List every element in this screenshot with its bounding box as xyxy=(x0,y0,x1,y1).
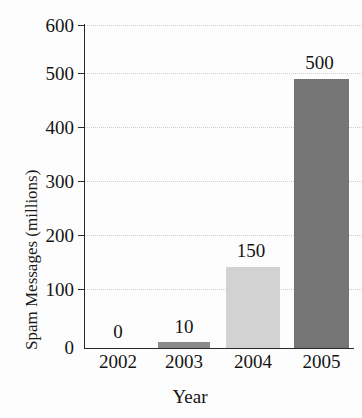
x-tick-label-2004: 2004 xyxy=(226,352,280,371)
y-tick-label-100: 100 xyxy=(22,280,74,299)
y-tick-label-0: 0 xyxy=(22,338,74,357)
bars-layer: 0 10 150 500 xyxy=(86,25,354,348)
y-axis-label-line2: Spam Messages (millions) xyxy=(22,170,42,350)
x-tick-label-2002: 2002 xyxy=(92,352,144,371)
bar-value-2002: 0 xyxy=(92,322,144,341)
x-tick-label-2003: 2003 xyxy=(158,352,210,371)
y-tick-label-200: 200 xyxy=(22,226,74,245)
x-axis-line xyxy=(84,348,354,349)
bar-2004 xyxy=(226,267,280,348)
y-tick-label-500: 500 xyxy=(22,64,74,83)
y-tick-label-600: 600 xyxy=(22,16,74,35)
y-tick-100 xyxy=(78,289,85,290)
bar-value-2005: 500 xyxy=(292,53,347,72)
bar-value-2003: 10 xyxy=(158,317,210,336)
y-tick-label-400: 400 xyxy=(22,118,74,137)
x-tick-label-2005: 2005 xyxy=(294,352,349,371)
bar-value-2004: 150 xyxy=(224,241,278,260)
y-tick-400 xyxy=(78,127,85,128)
x-axis-title: Year xyxy=(85,386,295,408)
y-tick-200 xyxy=(78,235,85,236)
bar-2005 xyxy=(294,79,349,348)
bar-chart: Spam Messages (millions) 600 500 400 300… xyxy=(0,0,362,418)
y-tick-300 xyxy=(78,181,85,182)
y-tick-500 xyxy=(78,73,85,74)
y-tick-label-300: 300 xyxy=(22,172,74,191)
bar-2003 xyxy=(158,342,210,348)
y-tick-600 xyxy=(78,25,85,26)
